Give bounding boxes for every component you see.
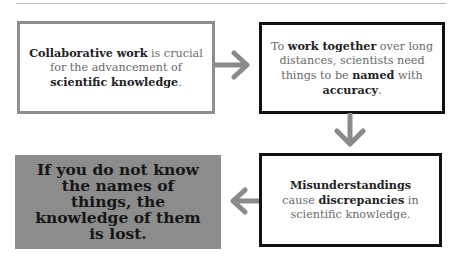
top-divider <box>16 3 446 4</box>
bold-text: Misunderstandings <box>290 178 411 192</box>
bold-text: scientific knowledge <box>50 75 178 89</box>
box-text: To work together over long distances, sc… <box>262 39 442 98</box>
bold-text: work together <box>288 39 377 53</box>
box-collaborative-work: Collaborative work is crucial for the ad… <box>17 21 215 114</box>
box-text: If you do not know the names of things, … <box>31 162 206 242</box>
bold-text: discrepancies <box>318 193 404 207</box>
text: . <box>378 84 382 97</box>
text: cause <box>282 194 318 207</box>
box-knowledge-lost: If you do not know the names of things, … <box>15 155 221 249</box>
text: To <box>271 40 288 53</box>
box-text: Misunderstandings cause discrepancies in… <box>262 178 439 222</box>
box-misunderstandings: Misunderstandings cause discrepancies in… <box>259 153 442 247</box>
arrow-left-icon <box>228 185 262 217</box>
text: . <box>178 76 182 89</box>
bold-text: Collaborative work <box>29 46 147 60</box>
bold-text: accuracy <box>322 83 377 97</box>
text: with <box>394 69 422 82</box>
bold-text: named <box>352 68 394 82</box>
box-text: Collaborative work is crucial for the ad… <box>20 46 212 90</box>
arrow-down-icon <box>332 113 368 149</box>
arrow-right-icon <box>214 48 254 82</box>
box-work-together: To work together over long distances, sc… <box>259 22 445 114</box>
